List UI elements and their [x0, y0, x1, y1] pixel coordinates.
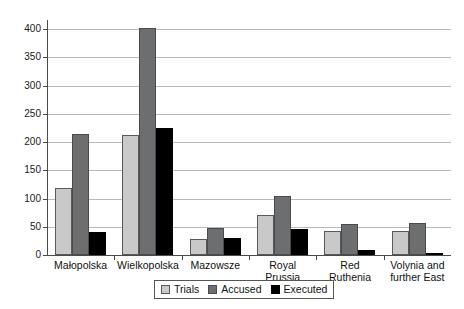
y-tick-label-100: 100	[3, 194, 41, 204]
y-tick-label-350: 350	[3, 52, 41, 62]
bar-executed	[156, 128, 173, 255]
bar-group-bars	[316, 29, 383, 255]
legend-swatch-trials	[161, 285, 170, 294]
legend-label-executed: Executed	[284, 284, 328, 295]
bar-chart: 050100150200250300350400 MałopolskaWielk…	[0, 0, 464, 309]
bar-accused	[72, 134, 89, 255]
bar-group	[316, 29, 383, 255]
bar-group	[249, 29, 316, 255]
bar-executed	[291, 229, 308, 255]
bar-group	[114, 29, 181, 255]
bar-group-bars	[47, 29, 114, 255]
bar-accused	[207, 228, 224, 255]
bar-group	[47, 29, 114, 255]
legend-item-executed: Executed	[271, 284, 328, 295]
bar-group-bars	[182, 29, 249, 255]
bar-executed	[358, 250, 375, 255]
bar-accused	[409, 223, 426, 255]
bar-trials	[55, 188, 72, 255]
legend-label-accused: Accused	[221, 284, 261, 295]
bar-group	[182, 29, 249, 255]
legend-swatch-executed	[271, 285, 280, 294]
bar-trials	[324, 231, 341, 255]
bar-group-bars	[384, 29, 451, 255]
x-tick-label: Volynia andfurther East	[378, 259, 457, 283]
bar-trials	[257, 215, 274, 255]
bar-executed	[426, 253, 443, 255]
bar-accused	[139, 28, 156, 255]
y-tick-0	[43, 255, 48, 256]
y-tick-label-300: 300	[3, 81, 41, 91]
bar-trials	[122, 135, 139, 255]
bar-executed	[89, 232, 106, 255]
plot-area	[47, 29, 451, 255]
y-tick-label-250: 250	[3, 109, 41, 119]
y-tick-label-50: 50	[3, 222, 41, 232]
bar-group-bars	[249, 29, 316, 255]
bar-executed	[224, 238, 241, 256]
y-tick-label-200: 200	[3, 137, 41, 147]
y-tick-label-400: 400	[3, 24, 41, 34]
bar-group-bars	[114, 29, 181, 255]
bar-accused	[341, 224, 358, 255]
y-tick-label-0: 0	[3, 250, 41, 260]
y-tick-label-150: 150	[3, 165, 41, 175]
bar-group	[384, 29, 451, 255]
legend-item-accused: Accused	[208, 284, 261, 295]
x-tick-label-line: Volynia and	[378, 259, 457, 271]
bar-trials	[392, 231, 409, 255]
legend-item-trials: Trials	[161, 284, 199, 295]
chart-legend: Trials Accused Executed	[154, 280, 334, 299]
legend-label-trials: Trials	[174, 284, 199, 295]
legend-swatch-accused	[208, 285, 217, 294]
bar-accused	[274, 196, 291, 255]
x-tick-label-line: further East	[378, 271, 457, 283]
bar-trials	[190, 239, 207, 255]
